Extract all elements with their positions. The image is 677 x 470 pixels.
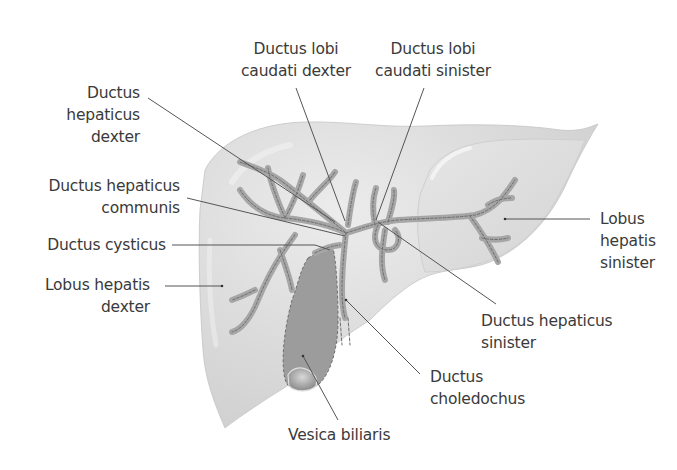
label-line: Ductus cysticus: [10, 234, 166, 256]
label-line: caudati dexter: [226, 60, 366, 82]
label-lobus-hepatis-dexter: Lobus hepatis dexter: [10, 274, 150, 318]
label-line: sinister: [481, 332, 661, 354]
label-line: Ductus lobi: [226, 38, 366, 60]
label-line: Lobus hepatis: [10, 274, 150, 296]
label-line: communis: [10, 197, 180, 219]
leader-ductus-choledochus: [346, 300, 420, 374]
label-ductus-lobi-caudati-sinister: Ductus lobi caudati sinister: [363, 38, 503, 82]
label-line: Ductus hepaticus: [10, 175, 180, 197]
label-line: Ductus: [40, 82, 140, 104]
label-ductus-hepaticus-dexter: Ductus hepaticus dexter: [40, 82, 140, 148]
label-ductus-lobi-caudati-dexter: Ductus lobi caudati dexter: [226, 38, 366, 82]
label-line: Vesica biliaris: [288, 424, 438, 446]
label-vesica-biliaris: Vesica biliaris: [288, 424, 438, 446]
label-line: hepaticus: [40, 104, 140, 126]
label-line: Ductus lobi: [363, 38, 503, 60]
label-line: dexter: [40, 126, 140, 148]
left-lobe-shape: [418, 139, 585, 272]
label-line: Ductus hepaticus: [481, 310, 661, 332]
label-line: choledochus: [430, 388, 580, 410]
label-ductus-hepaticus-sinister: Ductus hepaticus sinister: [481, 310, 661, 354]
label-line: Ductus: [430, 366, 580, 388]
label-ductus-hepaticus-communis: Ductus hepaticus communis: [10, 175, 180, 219]
label-ductus-cysticus: Ductus cysticus: [10, 234, 166, 256]
label-line: dexter: [10, 296, 150, 318]
label-ductus-choledochus: Ductus choledochus: [430, 366, 580, 410]
label-line: hepatis: [600, 230, 675, 252]
label-line: caudati sinister: [363, 60, 503, 82]
label-line: sinister: [600, 252, 675, 274]
label-line: Lobus: [600, 208, 675, 230]
label-lobus-hepatis-sinister: Lobus hepatis sinister: [600, 208, 675, 274]
